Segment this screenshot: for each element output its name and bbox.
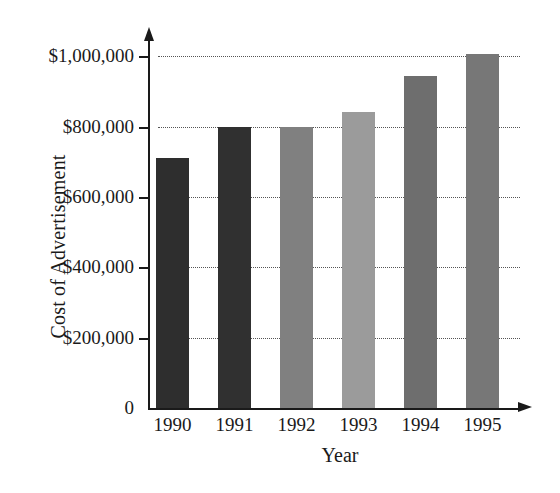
x-axis-line [148,408,520,410]
bar-1994 [404,76,437,409]
bars [148,28,538,408]
bar-1991 [218,127,251,408]
x-tick-label-1990: 1990 [143,414,203,436]
y-tick-label: $600,000 [63,186,134,208]
x-tick-label-1994: 1994 [391,414,451,436]
y-tick-label: $200,000 [63,327,134,349]
bar-1993 [342,112,375,408]
x-tick-label-1993: 1993 [329,414,389,436]
bar-1990 [156,158,189,408]
x-tick-label-1995: 1995 [453,414,513,436]
x-axis-title: Year [155,444,525,467]
bar-chart: Cost of Advertisement 0$200,000$400,000$… [0,0,560,493]
y-tick-label: 0 [125,397,135,419]
y-tick-label: $1,000,000 [49,45,135,67]
x-tick-label-1992: 1992 [267,414,327,436]
x-tick-label-1991: 1991 [205,414,265,436]
bar-1992 [280,127,313,408]
y-axis-title: Cost of Advertisement [38,0,78,493]
bar-1995 [466,54,499,408]
plot-area: 0$200,000$400,000$600,000$800,000$1,000,… [148,28,538,410]
y-tick-label: $800,000 [63,116,134,138]
y-tick-label: $400,000 [63,256,134,278]
